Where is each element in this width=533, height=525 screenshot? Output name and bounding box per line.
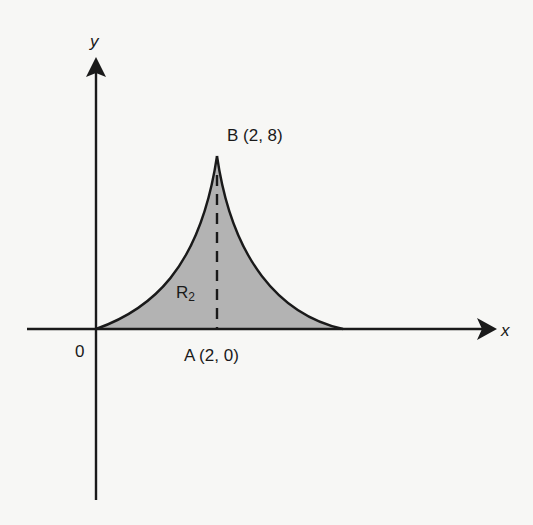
point-b-label: B (2, 8) xyxy=(227,127,283,144)
origin-label: 0 xyxy=(75,343,84,360)
region-r2-label: R2 xyxy=(176,284,195,303)
y-axis-label: y xyxy=(90,33,99,50)
diagram-canvas xyxy=(0,0,533,525)
point-a-label: A (2, 0) xyxy=(184,347,239,364)
region-name: R xyxy=(176,283,188,302)
region-subscript: 2 xyxy=(188,290,195,304)
x-axis-label: x xyxy=(501,322,510,339)
diagram-figure: y x 0 B (2, 8) A (2, 0) R2 xyxy=(0,0,533,525)
region-r2-fill xyxy=(96,156,343,329)
